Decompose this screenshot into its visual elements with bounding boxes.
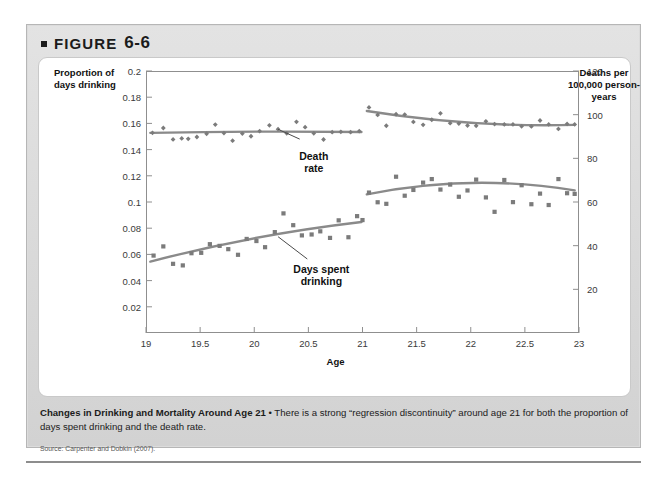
y-tick-right-1: 40 xyxy=(587,240,598,251)
y-tick-left-0: 0.02 xyxy=(107,301,141,312)
y-tick-left-6: 0.14 xyxy=(107,144,141,155)
x-axis-title: Age xyxy=(39,356,632,367)
y-tick-left-3: 0.08 xyxy=(107,223,141,234)
x-tick-8: 23 xyxy=(574,338,585,349)
figure-caption: Changes in Drinking and Mortality Around… xyxy=(40,406,628,433)
x-tick-1: 19.5 xyxy=(191,338,210,349)
figure-screenshot: FIGURE 6-6 Proportion of days drinking D… xyxy=(0,0,669,487)
y-tick-left-4: 0.1 xyxy=(107,197,141,208)
y-tick-right-2: 60 xyxy=(587,197,598,208)
y-tick-left-7: 0.16 xyxy=(107,118,141,129)
x-tick-0: 19 xyxy=(141,338,152,349)
x-tick-4: 21 xyxy=(357,338,368,349)
y-tick-right-4: 100 xyxy=(587,109,603,120)
figure-panel: FIGURE 6-6 Proportion of days drinking D… xyxy=(26,24,641,448)
y-tick-left-5: 0.12 xyxy=(107,170,141,181)
y-tick-right-0: 20 xyxy=(587,284,598,295)
plot-area xyxy=(146,71,579,333)
figure-header: FIGURE 6-6 xyxy=(41,33,150,53)
y-tick-left-9: 0.2 xyxy=(107,66,141,77)
chart-canvas xyxy=(146,71,579,333)
y-tick-left-8: 0.18 xyxy=(107,92,141,103)
y-tick-left-2: 0.06 xyxy=(107,249,141,260)
x-tick-3: 20.5 xyxy=(299,338,318,349)
figure-number: 6-6 xyxy=(124,33,150,53)
figure-source: Source: Carpenter and Dobkin (2007). xyxy=(40,445,155,452)
x-tick-5: 21.5 xyxy=(407,338,426,349)
annotation-days-spent-drinking: Days spent drinking xyxy=(293,263,349,287)
x-tick-7: 22.5 xyxy=(516,338,535,349)
y-tick-left-1: 0.04 xyxy=(107,275,141,286)
figure-label: FIGURE xyxy=(54,35,117,52)
caption-title: Changes in Drinking and Mortality Around… xyxy=(40,407,266,418)
y-tick-right-3: 80 xyxy=(587,153,598,164)
chart-card: Proportion of days drinking Deaths per 1… xyxy=(38,57,631,397)
bottom-divider xyxy=(26,461,641,463)
square-bullet-icon xyxy=(41,41,47,47)
annotation-death-rate: Death rate xyxy=(299,150,328,174)
y-tick-right-5: 120 xyxy=(587,66,603,77)
x-tick-2: 20 xyxy=(249,338,260,349)
x-tick-6: 22 xyxy=(465,338,476,349)
